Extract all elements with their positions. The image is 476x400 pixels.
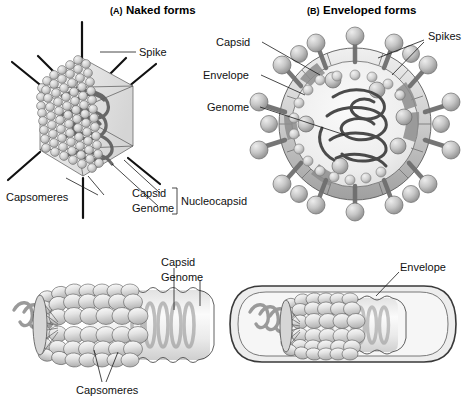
panel-b-paren: (B) [307,6,320,16]
helix-opening-b [280,300,292,352]
label-capsid-b: Capsid [216,36,250,48]
label-capsid-helical: Capsid [161,256,195,268]
panel-a-paren: (A) [110,6,123,16]
panel-b-heading: Enveloped forms [323,4,416,16]
label-capsid-a: Capsid [132,187,166,199]
label-genome-b: Genome [207,101,249,113]
label-genome-a: Genome [132,202,174,214]
label-envelope-b: Envelope [203,69,249,81]
figure-canvas: (A) Naked forms (B) Enveloped forms [0,0,476,400]
virus-diagram: (A) Naked forms (B) Enveloped forms [0,0,476,400]
label-envelope-bottom: Envelope [400,261,446,273]
helical-naked-virus: Capsid Genome Capsomeres [14,256,214,396]
helix-opening-a [33,295,47,355]
helical-enveloped-virus: Envelope [230,261,456,362]
icosahedral-naked-virus: Spike Capsomeres Capsid Genome Nucleocap… [6,22,247,218]
capsomere-shell-b [280,292,365,361]
label-genome-helical: Genome [161,271,203,283]
label-capsomeres-a: Capsomeres [6,191,69,203]
panel-a-heading: Naked forms [126,4,196,16]
enveloped-spherical-virus: Capsid Envelope Genome Spikes [203,27,462,221]
label-spike: Spike [139,46,167,58]
label-spikes: Spikes [428,30,462,42]
label-capsomeres-helical: Capsomeres [76,384,139,396]
label-nucleocapsid: Nucleocapsid [181,195,247,207]
